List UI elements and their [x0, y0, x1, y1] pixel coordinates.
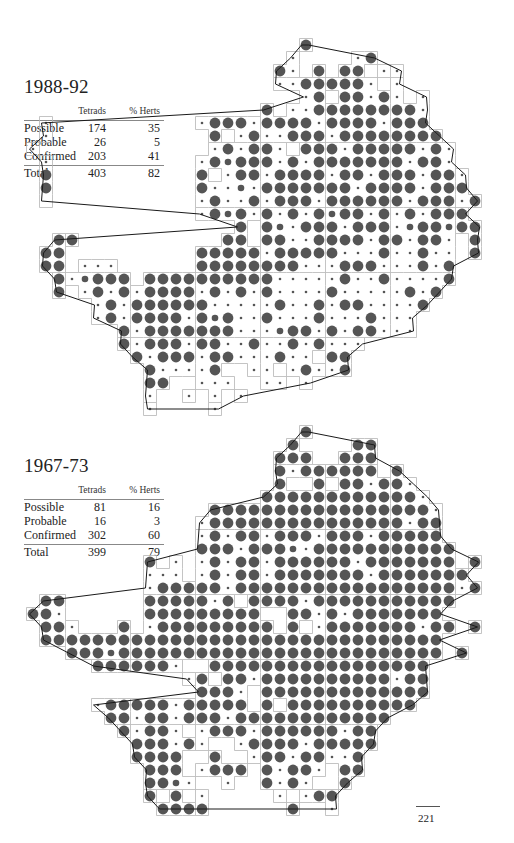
- confirmed-dot: [210, 687, 221, 698]
- confirmed-dot: [301, 557, 312, 568]
- confirmed-dot: [210, 726, 221, 737]
- confirmed-dot: [54, 622, 65, 633]
- possible-dot: [435, 509, 438, 512]
- confirmed-dot: [340, 570, 351, 581]
- confirmed-dot: [366, 687, 377, 698]
- confirmed-dot: [106, 635, 117, 646]
- confirmed-dot: [288, 674, 299, 685]
- confirmed-dot: [184, 739, 195, 750]
- confirmed-dot: [210, 635, 221, 646]
- confirmed-dot: [288, 726, 299, 737]
- confirmed-dot: [262, 752, 273, 763]
- confirmed-dot: [158, 726, 169, 737]
- confirmed-dot: [223, 596, 234, 607]
- confirmed-dot: [223, 687, 234, 698]
- possible-dot: [461, 587, 464, 590]
- confirmed-dot: [275, 518, 286, 529]
- confirmed-dot: [301, 453, 312, 464]
- confirmed-dot: [327, 596, 338, 607]
- confirmed-dot: [340, 453, 351, 464]
- possible-dot: [240, 743, 243, 746]
- confirmed-dot: [340, 713, 351, 724]
- confirmed-dot: [158, 700, 169, 711]
- confirmed-dot: [54, 635, 65, 646]
- confirmed-dot: [314, 635, 325, 646]
- confirmed-dot: [366, 609, 377, 620]
- confirmed-dot: [327, 466, 338, 477]
- confirmed-dot: [249, 739, 260, 750]
- confirmed-dot: [210, 622, 221, 633]
- confirmed-dot: [223, 726, 234, 737]
- confirmed-dot: [145, 700, 156, 711]
- confirmed-dot: [314, 583, 325, 594]
- confirmed-dot: [366, 583, 377, 594]
- possible-dot: [201, 795, 204, 798]
- confirmed-dot: [366, 661, 377, 672]
- confirmed-dot: [327, 583, 338, 594]
- possible-dot: [357, 561, 360, 564]
- confirmed-dot: [249, 544, 260, 555]
- confirmed-dot: [223, 700, 234, 711]
- confirmed-dot: [275, 661, 286, 672]
- confirmed-dot: [405, 583, 416, 594]
- confirmed-dot: [405, 570, 416, 581]
- confirmed-dot: [353, 479, 364, 490]
- confirmed-dot: [288, 700, 299, 711]
- possible-dot: [370, 535, 373, 538]
- confirmed-dot: [106, 661, 117, 672]
- probable-dot: [173, 780, 180, 787]
- confirmed-dot: [145, 713, 156, 724]
- confirmed-dot: [392, 479, 403, 490]
- possible-dot: [279, 769, 282, 772]
- confirmed-dot: [392, 557, 403, 568]
- possible-dot: [370, 483, 373, 486]
- confirmed-dot: [158, 583, 169, 594]
- confirmed-dot: [353, 622, 364, 633]
- confirmed-dot: [314, 674, 325, 685]
- confirmed-dot: [392, 687, 403, 698]
- confirmed-dot: [275, 492, 286, 503]
- confirmed-dot: [353, 648, 364, 659]
- possible-dot: [318, 626, 321, 629]
- confirmed-dot: [327, 635, 338, 646]
- possible-dot: [201, 743, 204, 746]
- possible-dot: [266, 535, 269, 538]
- possible-dot: [136, 730, 139, 733]
- confirmed-dot: [249, 570, 260, 581]
- possible-dot: [266, 561, 269, 564]
- confirmed-dot: [236, 648, 247, 659]
- possible-dot: [305, 548, 308, 551]
- possible-dot: [175, 717, 178, 720]
- page-number-rule: [416, 806, 440, 807]
- confirmed-dot: [197, 648, 208, 659]
- possible-dot: [71, 626, 74, 629]
- confirmed-dot: [145, 739, 156, 750]
- confirmed-dot: [327, 570, 338, 581]
- confirmed-dot: [301, 726, 312, 737]
- confirmed-dot: [327, 687, 338, 698]
- confirmed-dot: [405, 596, 416, 607]
- confirmed-dot: [301, 518, 312, 529]
- probable-dot: [290, 546, 297, 553]
- confirmed-dot: [340, 557, 351, 568]
- confirmed-dot: [275, 583, 286, 594]
- confirmed-dot: [353, 687, 364, 698]
- confirmed-dot: [379, 570, 390, 581]
- confirmed-dot: [249, 713, 260, 724]
- confirmed-dot: [210, 648, 221, 659]
- confirmed-dot: [249, 609, 260, 620]
- confirmed-dot: [288, 661, 299, 672]
- confirmed-dot: [171, 609, 182, 620]
- confirmed-dot: [392, 661, 403, 672]
- possible-dot: [201, 535, 204, 538]
- possible-dot: [201, 574, 204, 577]
- possible-dot: [279, 782, 282, 785]
- confirmed-dot: [366, 674, 377, 685]
- confirmed-dot: [392, 492, 403, 503]
- confirmed-dot: [41, 609, 52, 620]
- confirmed-dot: [418, 635, 429, 646]
- confirmed-dot: [405, 557, 416, 568]
- confirmed-dot: [288, 453, 299, 464]
- possible-dot: [305, 600, 308, 603]
- confirmed-dot: [366, 466, 377, 477]
